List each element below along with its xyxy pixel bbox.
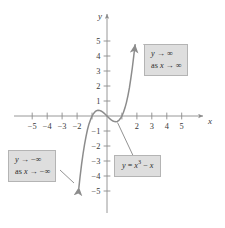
y-tick-label-4: 4 bbox=[96, 52, 101, 61]
callout-negative-infinity: y → −∞ as x → −∞ bbox=[8, 150, 56, 182]
y-axis-label: y bbox=[97, 11, 102, 21]
leader-line-equation bbox=[118, 123, 134, 156]
x-tick-label-4: 4 bbox=[165, 122, 170, 131]
x-tick-label--2: −2 bbox=[73, 122, 82, 131]
equation-variable-2: x bbox=[150, 161, 154, 170]
x-tick-label-2: 2 bbox=[135, 122, 139, 131]
callout-positive-infinity-line2-prefix: as bbox=[151, 61, 160, 70]
y-tick-label-3: 3 bbox=[96, 67, 100, 76]
x-tick-label-5: 5 bbox=[180, 122, 184, 131]
callout-positive-infinity-line1-rest: → ∞ bbox=[155, 49, 173, 58]
cubic-function-figure: −5 −4 −3 −2 2 3 4 5 5 4 3 2 1 −1 −2 −3 −… bbox=[0, 0, 225, 228]
callout-equation: y = x3 − x bbox=[114, 155, 161, 177]
y-tick-label-1: 1 bbox=[96, 97, 100, 106]
callout-negative-infinity-line2-rest: → −∞ bbox=[28, 167, 51, 176]
x-axis-label: x bbox=[207, 116, 212, 126]
y-tick-label-5: 5 bbox=[96, 37, 100, 46]
x-tick-label-3: 3 bbox=[150, 122, 154, 131]
x-tick-label--4: −4 bbox=[43, 122, 53, 131]
callout-negative-infinity-line1: y → −∞ bbox=[15, 154, 50, 166]
y-tick-label-2: 2 bbox=[96, 82, 100, 91]
y-tick-label--2: −2 bbox=[92, 142, 101, 151]
x-tick-labels: −5 −4 −3 −2 2 3 4 5 bbox=[28, 122, 184, 131]
x-tick-label--3: −3 bbox=[58, 122, 67, 131]
x-tick-label--5: −5 bbox=[28, 122, 37, 131]
y-tick-labels: 5 4 3 2 1 −1 −2 −3 −4 −5 bbox=[92, 37, 102, 196]
callout-positive-infinity-line2-rest: → ∞ bbox=[164, 61, 182, 70]
y-tick-label--3: −3 bbox=[92, 157, 101, 166]
equation-operator: − bbox=[141, 161, 150, 170]
callout-positive-infinity: y → ∞ as x → ∞ bbox=[144, 44, 188, 76]
y-tick-label--5: −5 bbox=[92, 187, 101, 196]
callout-negative-infinity-line2-prefix: as bbox=[15, 167, 24, 176]
plot-canvas: −5 −4 −3 −2 2 3 4 5 5 4 3 2 1 −1 −2 −3 −… bbox=[0, 0, 225, 228]
callout-positive-infinity-line2: as x → ∞ bbox=[151, 60, 182, 72]
y-tick-label--1: −1 bbox=[92, 127, 101, 136]
y-tick-label--4: −4 bbox=[92, 172, 102, 181]
leader-line-negative-infinity bbox=[60, 170, 74, 183]
callout-positive-infinity-line1: y → ∞ bbox=[151, 48, 182, 60]
callout-negative-infinity-line1-rest: → −∞ bbox=[19, 155, 42, 164]
callout-negative-infinity-line2: as x → −∞ bbox=[15, 166, 50, 178]
